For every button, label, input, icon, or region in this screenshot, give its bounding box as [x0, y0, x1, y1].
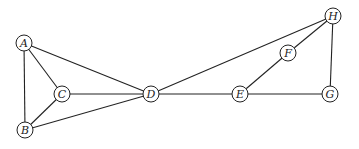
node-label: F — [283, 47, 292, 60]
node-B: B — [17, 122, 33, 138]
node-D: D — [143, 86, 159, 102]
edge-G-H — [330, 16, 333, 94]
edges — [24, 16, 333, 130]
node-label: C — [58, 88, 67, 101]
node-G: G — [322, 86, 338, 102]
edge-D-H — [151, 16, 333, 94]
edge-A-B — [24, 43, 25, 130]
node-label: H — [327, 10, 338, 23]
edge-E-F — [240, 53, 288, 94]
node-label: A — [19, 37, 28, 50]
node-label: B — [20, 124, 29, 137]
node-label: D — [146, 88, 156, 101]
node-C: C — [54, 86, 70, 102]
node-F: F — [280, 45, 296, 61]
node-label: G — [326, 88, 335, 101]
node-E: E — [232, 86, 248, 102]
node-label: E — [235, 88, 244, 101]
edge-F-H — [288, 16, 333, 53]
graph-diagram: ABCDEFGH — [0, 0, 359, 149]
node-A: A — [16, 35, 32, 51]
node-H: H — [325, 8, 341, 24]
